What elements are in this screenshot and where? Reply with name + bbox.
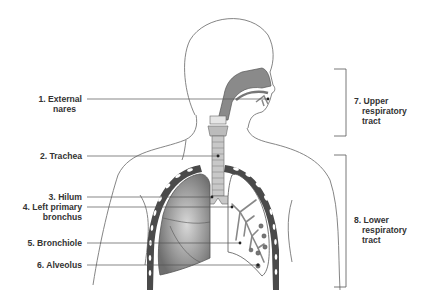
label-text: Upper — [364, 96, 389, 106]
label-number: 2. — [40, 151, 47, 161]
label-trachea: 2. Trachea — [40, 151, 82, 161]
label-external-nares: 1. External nares — [39, 94, 82, 114]
label-hilum: 3. Hilum — [49, 192, 82, 202]
label-number: 6. — [37, 260, 44, 270]
label-bronchiole: 5. Bronchiole — [28, 238, 82, 248]
label-text: Lower — [364, 215, 389, 225]
label-number: 1. — [39, 94, 46, 104]
label-lower-respiratory-tract: 8. Lower respiratory tract — [354, 215, 407, 245]
label-text: Alveolus — [46, 260, 82, 270]
label-text: Left primary — [32, 202, 82, 212]
label-left-primary-bronchus: 4. Left primary bronchus — [23, 202, 82, 222]
label-number: 5. — [28, 238, 35, 248]
label-text: Hilum — [58, 192, 82, 202]
label-text-3: tract — [362, 116, 407, 126]
label-text: Bronchiole — [37, 238, 82, 248]
label-number: 7. — [354, 96, 361, 106]
brackets — [334, 69, 346, 287]
label-text: External — [48, 94, 82, 104]
label-text-2: nares — [39, 104, 76, 114]
label-number: 4. — [23, 202, 30, 212]
nasal-cavity — [218, 68, 271, 120]
label-text-2: respiratory — [362, 225, 407, 235]
label-text-3: tract — [362, 235, 407, 245]
label-upper-respiratory-tract: 7. Upper respiratory tract — [354, 96, 407, 126]
label-text-2: respiratory — [362, 106, 407, 116]
label-text: Trachea — [50, 151, 83, 161]
label-text-2: bronchus — [23, 212, 82, 222]
label-number: 3. — [49, 192, 56, 202]
label-number: 8. — [354, 215, 361, 225]
label-alveolus: 6. Alveolus — [37, 260, 82, 270]
